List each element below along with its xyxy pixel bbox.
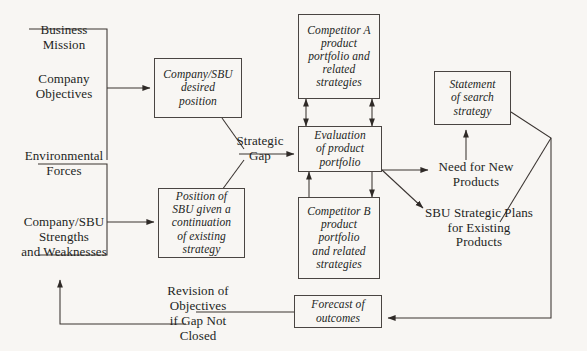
label-sbu-strategic-plans-text: SBU Strategic Plans for Existing Product… [425,206,533,250]
input-business-mission: Business Mission [18,19,110,57]
input-company-objectives-label: Company Objectives [36,72,93,102]
input-company-sbu-strengths-label: Company/SBU Strengths and Weaknesses [21,215,107,259]
label-strategic-gap: Strategic Gap [224,131,296,167]
label-revision-objectives: Revision of Objectives if Gap Not Closed [146,283,250,345]
box-evaluation[interactable]: Evaluation of product portfolio [298,126,382,172]
input-business-mission-label: Business Mission [40,23,87,53]
label-sbu-strategic-plans: SBU Strategic Plans for Existing Product… [414,203,544,253]
box-competitor-a-label: Competitor A product portfolio and relat… [307,24,370,90]
input-company-sbu-strengths: Company/SBU Strengths and Weaknesses [8,210,120,265]
input-environmental-forces-label: Environmental Forces [25,149,104,179]
label-revision-objectives-text: Revision of Objectives if Gap Not Closed [167,284,228,343]
box-forecast[interactable]: Forecast of outcomes [294,295,382,328]
box-competitor-b[interactable]: Competitor B product portfolio and relat… [298,197,380,279]
box-forecast-label: Forecast of outcomes [311,298,364,324]
box-desired-position[interactable]: Company/SBU desired position [154,58,242,118]
box-competitor-b-label: Competitor B product portfolio and relat… [307,205,371,271]
box-search-strategy[interactable]: Statement of search strategy [434,71,511,125]
box-desired-position-label: Company/SBU desired position [163,68,232,107]
box-competitor-a[interactable]: Competitor A product portfolio and relat… [298,14,380,99]
label-need-new-products: Need for New Products [428,158,524,192]
box-position-continuation-label: Position of SBU given a continuation of … [172,190,231,256]
label-strategic-gap-text: Strategic Gap [236,134,283,164]
label-need-new-products-text: Need for New Products [439,160,514,190]
input-company-objectives: Company Objectives [18,68,110,106]
box-search-strategy-label: Statement of search strategy [449,78,495,117]
input-environmental-forces: Environmental Forces [12,145,116,183]
box-evaluation-label: Evaluation of product portfolio [314,129,365,168]
strategy-flow-diagram: Business Mission Company Objectives Envi… [0,0,587,351]
box-position-continuation[interactable]: Position of SBU given a continuation of … [158,188,245,258]
